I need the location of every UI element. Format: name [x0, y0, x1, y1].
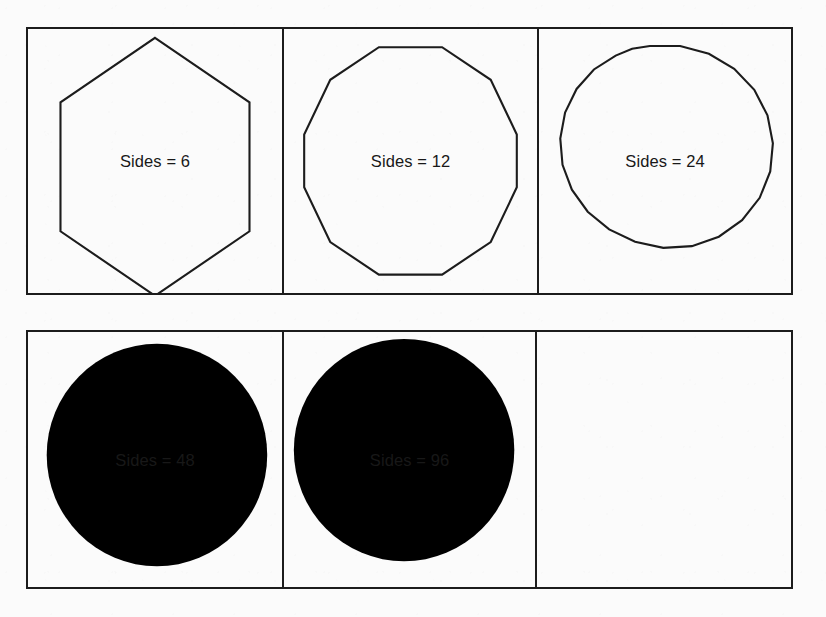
panel-label-sides-12: Sides = 12 [284, 152, 537, 170]
panel-label-sides-24: Sides = 24 [539, 152, 791, 170]
panel-row-2: Sides = 48 Sides = 96 [26, 330, 793, 589]
panel-label-sides-6: Sides = 6 [28, 152, 282, 170]
panel-sides-48: Sides = 48 [26, 330, 284, 589]
panel-row-1: Sides = 6 Sides = 12 Sides = 24 [26, 27, 793, 295]
panel-label-sides-48: Sides = 48 [28, 450, 282, 468]
panel-sides-6: Sides = 6 [26, 27, 284, 295]
panel-sides-12: Sides = 12 [282, 27, 539, 295]
panel-sides-96: Sides = 96 [282, 330, 537, 589]
panel-sides-24: Sides = 24 [537, 27, 793, 295]
panel-label-sides-96: Sides = 96 [284, 450, 535, 468]
panel-empty [535, 330, 793, 589]
polygon-figure-grid: Sides = 6 Sides = 12 Sides = 24 Sides = … [0, 0, 826, 617]
